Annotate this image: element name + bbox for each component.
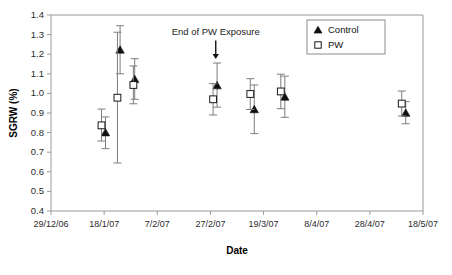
pw-marker: [247, 91, 254, 98]
x-axis-label: Date: [226, 245, 248, 256]
data-point: [277, 74, 285, 108]
data-point: [131, 59, 139, 100]
annotation-text: End of PW Exposure: [172, 26, 260, 37]
y-axis-ticks: 0.40.50.60.70.80.91.01.11.21.31.4: [31, 9, 51, 216]
data-point: [97, 109, 105, 141]
data-point: [129, 66, 137, 104]
x-tick-label: 28/4/07: [355, 219, 385, 229]
control-marker: [101, 129, 109, 136]
y-tick-label: 1.3: [31, 29, 44, 40]
control-marker: [213, 81, 221, 88]
x-tick-label: 7/2/07: [145, 219, 170, 229]
pw-marker: [98, 122, 105, 129]
chart-legend: ControlPW: [307, 20, 385, 54]
x-tick-label: 27/2/07: [195, 219, 225, 229]
y-tick-label: 1.1: [31, 68, 44, 79]
x-tick-label: 18/5/07: [408, 219, 438, 229]
pw-marker: [130, 82, 137, 89]
annotation-layer: End of PW Exposure: [172, 26, 260, 60]
legend-label: PW: [328, 39, 343, 50]
legend-label: Control: [328, 24, 359, 35]
y-tick-label: 0.6: [31, 166, 44, 177]
pw-marker: [277, 88, 284, 95]
x-tick-label: 18/1/07: [89, 219, 119, 229]
y-tick-label: 0.9: [31, 107, 44, 118]
data-point: [281, 76, 289, 117]
x-tick-label: 8/4/07: [304, 219, 329, 229]
y-tick-label: 1.0: [31, 87, 44, 98]
x-tick-label: 19/3/07: [249, 219, 279, 229]
x-tick-label: 29/12/06: [33, 219, 68, 229]
pw-marker: [210, 96, 217, 103]
chart-figure: 0.40.50.60.70.80.91.01.11.21.31.4 29/12/…: [0, 0, 452, 275]
y-tick-label: 0.5: [31, 185, 44, 196]
x-axis-ticks: 29/12/0618/1/077/2/0727/2/0719/3/078/4/0…: [33, 211, 438, 229]
y-tick-label: 0.8: [31, 127, 44, 138]
sgrw-scatter-chart: 0.40.50.60.70.80.91.01.11.21.31.4 29/12/…: [0, 0, 452, 275]
y-tick-label: 1.2: [31, 48, 44, 59]
pw-marker: [398, 100, 405, 107]
annotation-arrow-head: [213, 54, 219, 59]
pw-marker: [114, 94, 121, 101]
legend-pw-marker: [315, 42, 321, 48]
y-tick-label: 1.4: [31, 9, 44, 20]
y-axis-label: SGRW (%): [8, 88, 19, 137]
control-marker: [402, 109, 410, 116]
data-point: [246, 79, 254, 110]
y-tick-label: 0.7: [31, 146, 44, 157]
y-tick-label: 0.4: [31, 205, 44, 216]
